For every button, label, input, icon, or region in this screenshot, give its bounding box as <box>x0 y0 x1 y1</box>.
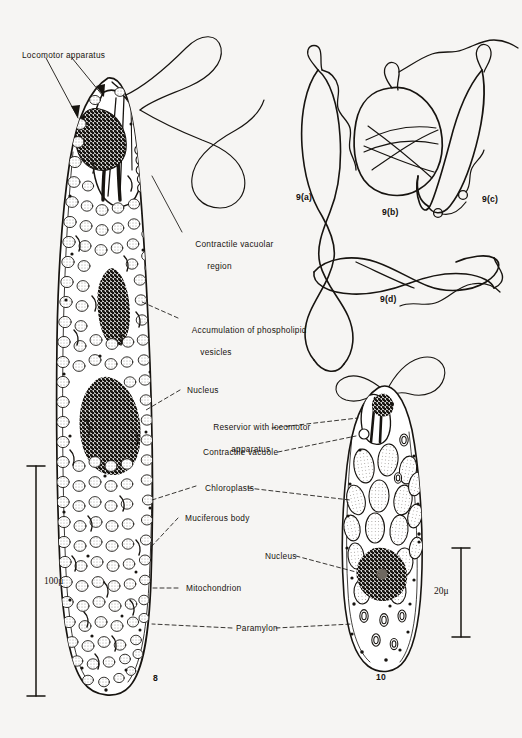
label-contractile-vacuolar-region-line1: Contractile vacuolar <box>195 239 273 249</box>
figure9b-drawing <box>354 40 518 195</box>
scale-bar-20um <box>452 548 470 637</box>
label-contractile-vacuole: Contractile vacuole <box>203 447 278 458</box>
label-accumulation-phospholipid-line1: Accumulation of phospholipid <box>192 325 307 335</box>
scale-label-20um: 20μ <box>434 586 449 596</box>
label-nucleus-figure10: Nucleus <box>265 551 297 562</box>
figure-label-9d: 9(d) <box>380 294 397 304</box>
figure8-flagellum <box>124 37 264 208</box>
figure-label-9b: 9(b) <box>382 207 399 217</box>
label-paramylon: Paramylon <box>236 623 278 634</box>
figure9d-drawing <box>314 256 503 306</box>
scale-bar-100um <box>27 466 45 696</box>
label-chloroplasts: Chloroplasts <box>205 483 254 494</box>
label-nucleus-figure8: Nucleus <box>187 385 219 396</box>
figure10-contractile-vacuole <box>359 429 369 439</box>
illustration-plate: Locomotor apparatus Contractile vacuolar… <box>0 0 522 738</box>
label-reservoir-with-locomotor-apparatus: Reservior with locomotor apparatus <box>203 411 311 466</box>
label-reservoir-line1: Reservior with locomotor <box>213 422 310 432</box>
label-contractile-vacuolar-region: Contractile vacuolar region <box>185 228 274 283</box>
figure9a-drawing <box>302 46 356 372</box>
label-accumulation-phospholipid: Accumulation of phospholipid vesicles <box>182 314 307 369</box>
label-contractile-vacuolar-region-line2: region <box>195 261 232 272</box>
figure9c-drawing <box>417 45 491 218</box>
label-mitochondrion: Mitochondrion <box>186 583 241 594</box>
figure-label-9c: 9(c) <box>482 194 498 204</box>
figure-number-10: 10 <box>376 672 386 682</box>
label-locomotor-apparatus: Locomotor apparatus <box>22 50 105 61</box>
label-accumulation-phospholipid-line2: vesicles <box>192 347 232 358</box>
label-muciferous-body: Muciferous body <box>185 513 250 524</box>
figure-label-9a: 9(a) <box>296 192 312 202</box>
scale-label-100um: 100μ <box>44 576 63 586</box>
figure-number-8: 8 <box>153 673 158 683</box>
